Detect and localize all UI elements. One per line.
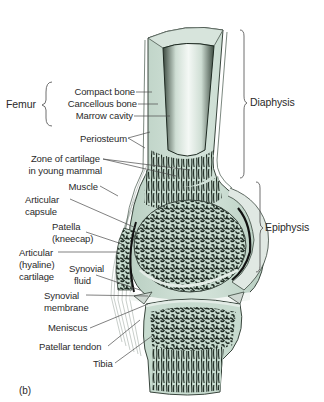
label-synovial-fluid-1: Synovial <box>69 263 104 274</box>
label-articular-capsule-2: capsule <box>25 206 57 217</box>
label-articular-cartilage-1: Articular <box>19 247 53 258</box>
femur-brace <box>42 82 52 126</box>
label-articular-cartilage-2: (hyaline) <box>19 259 55 270</box>
label-diaphysis: Diaphysis <box>250 97 295 108</box>
label-synovial-membrane-2: membrane <box>44 302 89 313</box>
label-zone-of-cartilage-1: Zone of cartilage <box>31 153 100 164</box>
label-zone-of-cartilage-2: in young mammal <box>29 165 102 176</box>
label-synovial-membrane-1: Synovial <box>44 290 79 301</box>
label-cancellous-bone: Cancellous bone <box>68 98 137 109</box>
label-muscle: Muscle <box>69 181 99 192</box>
label-patellar-tendon: Patellar tendon <box>39 341 101 352</box>
knee-joint-diagram: Femur Compact bone Cancellous bone Marro… <box>0 0 324 402</box>
diaphysis-brace <box>240 30 247 178</box>
label-patella-1: Patella <box>52 221 80 232</box>
label-tibia: Tibia <box>93 358 113 369</box>
label-meniscus: Meniscus <box>48 322 87 333</box>
label-femur: Femur <box>6 99 36 110</box>
panel-label: (b) <box>19 385 31 396</box>
marrow-cavity <box>163 43 214 156</box>
label-compact-bone: Compact bone <box>74 86 135 97</box>
label-marrow-cavity: Marrow cavity <box>76 110 133 121</box>
label-epiphysis: Epiphysis <box>265 222 309 233</box>
label-articular-cartilage-3: cartilage <box>19 271 54 282</box>
label-patella-2: (kneecap) <box>52 233 93 244</box>
label-periosteum: Periosteum <box>80 133 127 144</box>
label-articular-capsule-1: Articular <box>25 194 59 205</box>
label-synovial-fluid-2: fluid <box>74 275 91 286</box>
